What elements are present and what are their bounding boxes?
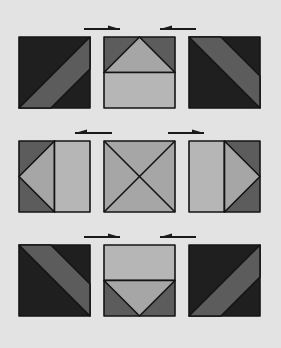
- arrow-right-icon: [84, 234, 120, 238]
- arrow-left-icon: [160, 26, 196, 30]
- tile-r1-mid: top half: medium with light upward trian…: [104, 37, 175, 108]
- tile-r1-right: dark square with medium diagonal band fr…: [189, 37, 260, 108]
- diagram-canvas: dark square with medium diagonal band fr…: [0, 0, 281, 348]
- tile-r3-right: dark square with medium diagonal band fr…: [189, 245, 260, 316]
- tile-r3-mid: top half: light rectangle; bottom half: …: [104, 245, 175, 316]
- arrow-left-icon: [160, 234, 196, 238]
- quilt-diagram: dark square with medium diagonal band fr…: [0, 0, 281, 348]
- arrow-left-icon: [75, 130, 112, 134]
- tile-r2-left: left half: medium with light leftward tr…: [19, 141, 90, 212]
- tile-r2-right: left half: light rectangle; right half: …: [189, 141, 260, 212]
- tile-r3-left: dark square with medium diagonal band fr…: [19, 245, 90, 316]
- arrow-right-icon: [168, 130, 204, 134]
- tile-r1-left: dark square with medium diagonal band fr…: [19, 37, 90, 108]
- arrow-right-icon: [84, 26, 120, 30]
- tile-r2-mid: light square with two diagonals forming …: [104, 141, 175, 212]
